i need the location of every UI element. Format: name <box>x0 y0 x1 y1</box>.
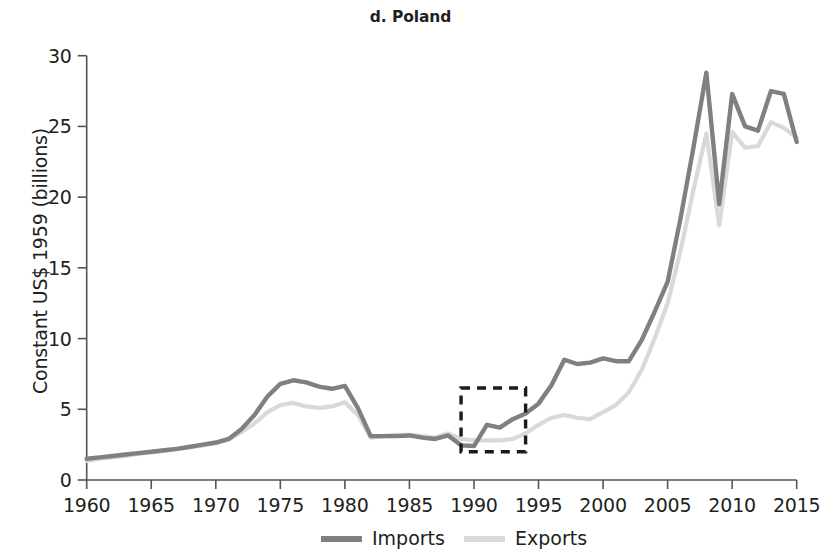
x-axis-ticks: 1960196519701975198019851990199520002005… <box>63 480 821 516</box>
y-tick-label: 25 <box>48 115 72 137</box>
x-tick-label: 2010 <box>708 494 756 516</box>
x-tick-label: 2015 <box>773 494 821 516</box>
y-tick-label: 5 <box>60 398 72 420</box>
legend-label-imports: Imports <box>372 527 445 549</box>
x-tick-label: 1960 <box>63 494 111 516</box>
y-tick-label: 30 <box>48 45 72 67</box>
x-tick-label: 1985 <box>386 494 434 516</box>
legend-label-exports: Exports <box>515 527 587 549</box>
x-tick-label: 1970 <box>192 494 240 516</box>
series-line-imports <box>87 73 797 459</box>
x-tick-label: 1980 <box>321 494 369 516</box>
chart-legend: ImportsExports <box>321 527 587 549</box>
y-tick-label: 20 <box>48 186 72 208</box>
plot-area: 051015202530 196019651970197519801985199… <box>0 0 821 559</box>
y-axis-title: Constant US$ 1959 (billions) <box>29 51 51 471</box>
x-tick-label: 1975 <box>257 494 305 516</box>
y-tick-label: 15 <box>48 257 72 279</box>
x-tick-label: 2005 <box>644 494 692 516</box>
x-tick-label: 1965 <box>127 494 175 516</box>
x-tick-label: 1990 <box>450 494 498 516</box>
chart-title: d. Poland <box>0 8 821 26</box>
x-tick-label: 1995 <box>515 494 563 516</box>
y-tick-label: 0 <box>60 469 72 491</box>
chart-figure: d. Poland Constant US$ 1959 (billions) 0… <box>0 0 821 559</box>
y-axis-ticks: 051015202530 <box>48 45 87 491</box>
y-tick-label: 10 <box>48 328 72 350</box>
x-tick-label: 2000 <box>579 494 627 516</box>
